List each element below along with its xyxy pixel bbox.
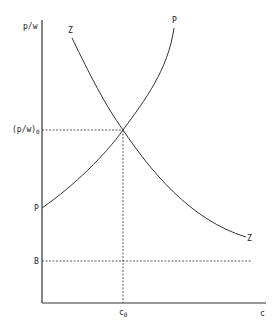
b-line-label: B	[34, 257, 39, 266]
z-curve	[72, 38, 246, 237]
economic-diagram: p/w c Z Z P P (p/w)0 c0 B	[0, 0, 277, 328]
y-axis-label: p/w	[23, 22, 38, 31]
x-axis-label: c	[260, 309, 265, 318]
equilibrium-price-label: (p/w)0	[12, 125, 40, 135]
equilibrium-quantity-label: c0	[119, 308, 128, 318]
z-curve-label-bottom: Z	[247, 234, 252, 243]
p-curve-label-top: P	[172, 16, 177, 25]
p-curve	[42, 28, 174, 208]
p-curve-label-axis: P	[34, 204, 39, 213]
z-curve-label-top: Z	[68, 26, 73, 35]
